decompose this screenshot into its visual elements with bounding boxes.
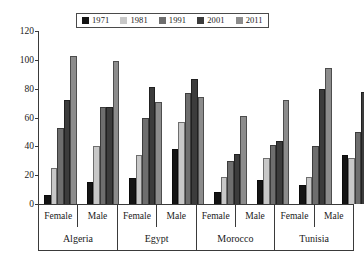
bar-group-morocco-female: [209, 31, 252, 204]
bar-2011-algeria-female: [70, 56, 77, 204]
legend-item-2001: 2001: [197, 16, 224, 25]
legend-item-2011: 2011: [236, 16, 263, 25]
x-label-female-2: Female: [118, 205, 157, 227]
x-country-label-tunisia: Tunisia: [275, 227, 353, 250]
legend-item-1971: 1971: [82, 16, 109, 25]
bar-group-tunisia-female: [294, 31, 337, 204]
legend-swatch-icon: [197, 17, 204, 24]
x-country-label-algeria: Algeria: [39, 227, 118, 250]
bar-group-algeria-female: [39, 31, 82, 204]
bar-2011-morocco-female: [240, 116, 247, 204]
bar-series-container: [39, 31, 354, 204]
bar-group-morocco-male: [252, 31, 295, 204]
legend-item-1981: 1981: [120, 16, 147, 25]
x-country-label-egypt: Egypt: [118, 227, 197, 250]
bar-2011-egypt-male: [198, 97, 205, 204]
bar-2011-morocco-male: [283, 100, 290, 204]
plot-area: 020406080100120: [38, 31, 354, 205]
x-label-female-6: Female: [275, 205, 314, 227]
x-label-male-3: Male: [157, 205, 196, 227]
legend-swatch-icon: [159, 17, 166, 24]
legend-label: 1971: [92, 16, 109, 25]
bar-2011-algeria-male: [113, 61, 120, 204]
legend-swatch-icon: [82, 17, 89, 24]
legend-item-1991: 1991: [159, 16, 186, 25]
x-axis-country-row: AlgeriaEgyptMoroccoTunisia: [38, 227, 354, 251]
y-tick-label: 20: [25, 170, 35, 180]
y-tick-label: 120: [20, 26, 34, 36]
bar-group-egypt-female: [124, 31, 167, 204]
x-label-female-4: Female: [197, 205, 236, 227]
x-axis-subcategory-row: FemaleMaleFemaleMaleFemaleMaleFemaleMale: [38, 205, 354, 227]
legend-label: 2001: [207, 16, 224, 25]
bar-chart: 19711981199120012011 020406080100120 Fem…: [0, 0, 364, 259]
y-tick-label: 80: [25, 84, 35, 94]
bar-2011-egypt-female: [155, 102, 162, 204]
x-label-male-1: Male: [78, 205, 117, 227]
legend-swatch-icon: [120, 17, 127, 24]
x-label-male-7: Male: [315, 205, 353, 227]
x-label-male-5: Male: [236, 205, 275, 227]
x-country-label-morocco: Morocco: [197, 227, 276, 250]
legend-label: 1981: [130, 16, 147, 25]
y-tick-label: 40: [25, 141, 35, 151]
legend-swatch-icon: [236, 17, 243, 24]
bar-2011-tunisia-female: [325, 68, 332, 204]
bar-group-algeria-male: [82, 31, 125, 204]
bar-group-tunisia-male: [337, 31, 364, 204]
y-tick-label: 100: [20, 55, 34, 65]
chart-legend: 19711981199120012011: [76, 13, 269, 28]
y-tick-label: 0: [29, 199, 34, 209]
legend-label: 2011: [246, 16, 263, 25]
y-tick-label: 60: [25, 113, 35, 123]
legend-label: 1991: [169, 16, 186, 25]
x-label-female-0: Female: [39, 205, 78, 227]
bar-group-egypt-male: [167, 31, 210, 204]
